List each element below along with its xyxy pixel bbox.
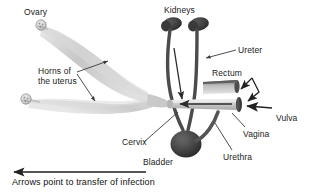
label-urethra: Urethra	[223, 152, 252, 162]
kidney-right	[188, 15, 210, 32]
uterine-horn-lower	[28, 97, 153, 114]
urethra	[196, 112, 218, 141]
bladder	[171, 131, 202, 158]
infection-transfer-diagram: Ovary Kidneys Ureter Rectum Vulva Vagina…	[0, 0, 317, 192]
leader-urethra	[215, 123, 232, 150]
label-horns-of-uterus-line1: Horns of	[38, 66, 71, 76]
vulva	[236, 97, 242, 112]
arrow-ureter-descending	[174, 48, 182, 99]
label-vulva: Vulva	[276, 113, 297, 123]
label-horns-of-uterus-line2: the uterus	[38, 76, 77, 86]
uterine-horn-upper	[38, 25, 150, 104]
kidney-left	[161, 15, 183, 32]
label-cervix: Cervix	[122, 137, 147, 147]
ovary-left-upper	[36, 20, 48, 30]
label-bladder: Bladder	[143, 157, 173, 167]
arrow-external-to-vulva	[247, 106, 272, 108]
caption-text: Arrows point to transfer of infection	[12, 177, 155, 187]
leader-ureter	[206, 50, 236, 58]
label-ovary: Ovary	[24, 7, 47, 17]
cervix	[167, 99, 173, 108]
rectum	[203, 80, 240, 94]
arrow-rectum-to-vagina	[248, 78, 259, 101]
ureter-left	[168, 30, 183, 130]
label-rectum: Rectum	[212, 68, 242, 78]
leader-horn-lower	[77, 74, 95, 101]
leader-vagina	[232, 113, 245, 127]
label-kidneys: Kidneys	[164, 5, 195, 15]
uterus-body	[147, 94, 168, 107]
ureter-right	[188, 30, 197, 130]
arrow-rectum-to-anus	[241, 78, 252, 89]
label-ureter: Ureter	[238, 45, 262, 55]
label-vagina: Vagina	[243, 129, 269, 139]
